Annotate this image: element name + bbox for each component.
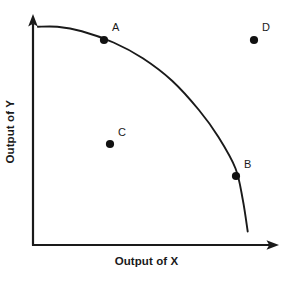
data-point-d[interactable] — [250, 36, 258, 44]
x-axis-title: Output of X — [0, 256, 293, 268]
y-axis — [28, 14, 38, 246]
y-axis-title: Output of Y — [5, 95, 17, 169]
data-point-a[interactable] — [100, 36, 108, 44]
data-point-label-a: A — [112, 22, 120, 33]
chart-plot-area — [0, 0, 293, 285]
data-point-label-b: B — [244, 159, 252, 170]
y-axis-title-container: Output of Y — [0, 0, 24, 285]
data-point-b[interactable] — [232, 172, 240, 180]
ppf-curve — [38, 26, 248, 231]
ppf-chart-figure: A B C D Output of X Output of Y — [0, 0, 293, 285]
data-point-label-d: D — [262, 22, 270, 33]
x-axis — [32, 240, 279, 250]
data-point-label-c: C — [118, 127, 126, 138]
data-point-c[interactable] — [106, 140, 114, 148]
